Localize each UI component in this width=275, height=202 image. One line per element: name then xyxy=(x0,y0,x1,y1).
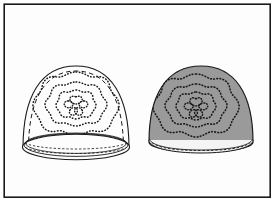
figure-root xyxy=(0,0,275,202)
figure-canvas xyxy=(0,0,275,202)
